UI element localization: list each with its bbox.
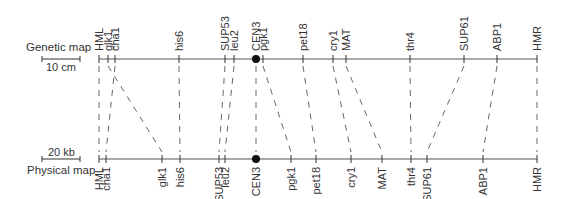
connector-pet18 (303, 66, 316, 152)
connector-cha1 (106, 66, 115, 152)
connector-pgk1 (263, 66, 291, 152)
physical-locus-cha1: cha1 (100, 167, 112, 191)
connector-sup53 (219, 66, 225, 152)
physical-locus-sup61: SUP61 (421, 167, 433, 199)
connector-glk1 (108, 66, 162, 152)
physical-locus-abp1: ABP1 (477, 167, 489, 195)
physical-locus-mat: MAT (376, 167, 388, 190)
centromere-icon (252, 55, 260, 63)
physical-locus-cry1: cry1 (345, 167, 357, 188)
genetic-locus-cha1: cha1 (109, 27, 121, 51)
physical-locus-hmr: HMR (531, 167, 543, 192)
genetic-scale-label: 10 cm (46, 61, 76, 73)
physical-locus-glk1: glk1 (156, 167, 168, 187)
genetic-locus-thr4: thr4 (404, 32, 416, 51)
connector-cry1 (333, 66, 351, 152)
genetic-physical-map-diagram: Genetic map 10 cm 20 kb Physical map HML… (0, 0, 567, 199)
genetic-locus-pet18: pet18 (297, 23, 309, 51)
physical-locus-pgk1: pgk1 (285, 167, 297, 191)
physical-map-title: Physical map (27, 164, 95, 176)
physical-locus-his6: his6 (174, 167, 186, 187)
genetic-locus-mat: MAT (340, 28, 352, 51)
genetic-locus-abp1: ABP1 (491, 23, 503, 51)
centromere-icon (252, 155, 260, 163)
genetic-locus-pgk1: pgk1 (257, 27, 269, 51)
connector-thr4 (410, 66, 411, 152)
connector-abp1 (483, 66, 497, 152)
connector-his6 (179, 66, 180, 152)
genetic-locus-sup61: SUP61 (458, 16, 470, 51)
genetic-locus-his6: his6 (173, 31, 185, 51)
connector-mat (346, 66, 382, 152)
genetic-map-title: Genetic map (26, 41, 91, 53)
genetic-map-loci: HMLglk1cha1his6SUP53leu2CEN3pgk1pet18cry… (93, 16, 543, 63)
genetic-locus-hmr: HMR (531, 26, 543, 51)
genetic-locus-leu2: leu2 (228, 30, 240, 51)
physical-map-loci: HMLcha1glk1his6SUP53leu2CEN3pgk1pet18cry… (93, 155, 543, 199)
physical-locus-pet18: pet18 (310, 167, 322, 195)
physical-locus-leu2: leu2 (219, 167, 231, 188)
connector-leu2 (225, 66, 234, 152)
physical-scale-label: 20 kb (48, 146, 75, 158)
locus-connectors (99, 66, 537, 152)
physical-locus-thr4: thr4 (405, 167, 417, 186)
physical-locus-cen3: CEN3 (250, 167, 262, 196)
connector-sup61 (427, 66, 464, 152)
genetic-locus-cry1: cry1 (327, 30, 339, 51)
